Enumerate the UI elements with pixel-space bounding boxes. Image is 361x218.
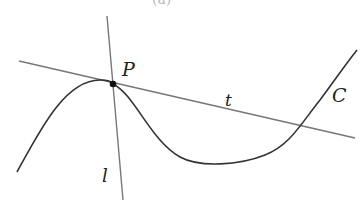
point-p-marker bbox=[110, 81, 117, 88]
tangent-label: t bbox=[225, 92, 232, 109]
normal-line bbox=[107, 16, 123, 200]
diagram-canvas: (a) P t C l bbox=[0, 0, 361, 218]
curve-label: C bbox=[332, 86, 347, 105]
normal-label: l bbox=[102, 167, 108, 185]
tangent-line bbox=[19, 61, 355, 138]
curve bbox=[17, 50, 357, 172]
diagram-svg bbox=[0, 0, 361, 218]
point-label: P bbox=[122, 60, 135, 79]
